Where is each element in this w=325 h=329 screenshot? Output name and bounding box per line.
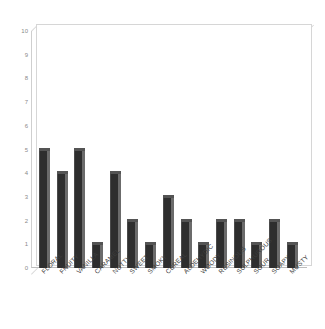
bar-top-face [269, 219, 280, 222]
bar-top-face [74, 148, 85, 151]
bar-side-face [82, 150, 85, 269]
y-axis-tick-6: 6 [10, 123, 28, 129]
y-axis-tick-10: 10 [10, 28, 28, 34]
bar-top-face [39, 148, 50, 151]
y-axis-tick-labels: 012345678910 [8, 0, 28, 329]
y-axis-tick-0: 0 [10, 265, 28, 271]
bar-top-face [216, 219, 227, 222]
y-axis-tick-7: 7 [10, 99, 28, 105]
bar-top-face [234, 219, 245, 222]
bars-container [31, 31, 307, 268]
bar-side-face [171, 197, 174, 268]
bar-side-face [47, 150, 50, 269]
bar [74, 150, 85, 269]
y-axis-tick-4: 4 [10, 170, 28, 176]
bar-top-face [145, 242, 156, 245]
x-axis-category-labels: FLORALFRUITYVANILLACARAMELNUTTYSWEETSMOK… [31, 270, 321, 329]
bar [39, 150, 50, 269]
bar-top-face [110, 171, 121, 174]
y-axis-tick-1: 1 [10, 241, 28, 247]
y-axis-tick-5: 5 [10, 147, 28, 153]
y-axis-tick-2: 2 [10, 218, 28, 224]
bar-top-face [92, 242, 103, 245]
bar-side-face [65, 173, 68, 268]
bar-chart: 012345678910 FLORALFRUITYVANILLACARAMELN… [0, 0, 325, 329]
y-axis-tick-3: 3 [10, 194, 28, 200]
y-axis-tick-9: 9 [10, 52, 28, 58]
bar-top-face [181, 219, 192, 222]
y-axis-tick-8: 8 [10, 75, 28, 81]
bar-top-face [57, 171, 68, 174]
bar-top-face [127, 219, 138, 222]
bar-top-face [163, 195, 174, 198]
bar-top-face [287, 242, 298, 245]
